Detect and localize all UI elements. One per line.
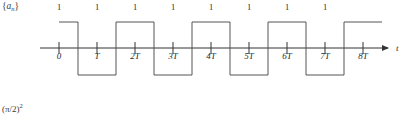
tick-label-5T: 5T bbox=[244, 52, 254, 61]
square-wave-figure: {an} 1 1 1 1 1 1 1 1 0 T 2T 3T 4T 5T 6T … bbox=[0, 0, 405, 119]
amplitude-label: 1 bbox=[95, 3, 99, 12]
amplitude-label: 1 bbox=[247, 3, 251, 12]
tick-label-7T: 7T bbox=[320, 52, 330, 61]
amplitude-label: 1 bbox=[57, 3, 61, 12]
sequence-label: {an} bbox=[2, 2, 19, 13]
tick-label-0: 0 bbox=[57, 52, 62, 61]
amplitude-label: 1 bbox=[323, 3, 327, 12]
axis-label-t: t bbox=[396, 44, 399, 53]
amplitude-label: 1 bbox=[285, 3, 289, 12]
bottom-caption-base: (π/2) bbox=[2, 104, 20, 114]
tick-label-6T: 6T bbox=[282, 52, 292, 61]
sequence-close-brace: } bbox=[15, 1, 20, 11]
amplitude-label: 1 bbox=[209, 3, 213, 12]
tick-label-8T: 8T bbox=[358, 52, 368, 61]
bottom-caption: (π/2)2 bbox=[2, 103, 23, 114]
amplitude-label: 1 bbox=[133, 3, 137, 12]
tick-label-4T: 4T bbox=[206, 52, 216, 61]
tick-label-1T: T bbox=[94, 52, 99, 61]
amplitude-label: 1 bbox=[171, 3, 175, 12]
bottom-caption-exponent: 2 bbox=[20, 102, 23, 109]
tick-label-3T: 3T bbox=[168, 52, 178, 61]
tick-label-2T: 2T bbox=[130, 52, 140, 61]
